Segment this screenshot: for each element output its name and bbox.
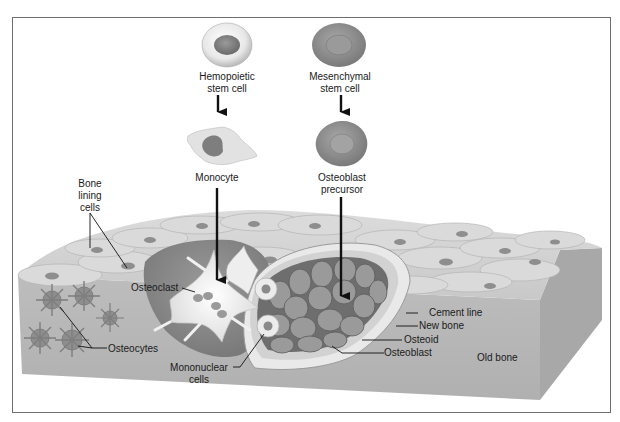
bone-lining-cells-label: Bone lining cells [70,178,110,214]
new-bone-label: New bone [419,320,464,332]
bone-lining-line2: lining [70,190,110,202]
cement-line-label: Cement line [429,307,482,319]
bone-lining-line3: cells [70,202,110,214]
hemopoietic-label-line1: Hemopoietic [187,71,267,83]
osteoblast-precursor-line2: precursor [302,184,382,196]
mononuclear-line1: Mononuclear [165,362,233,374]
osteoblast-label: Osteoblast [384,347,432,359]
osteoid-label: Osteoid [404,334,438,346]
osteoblast-precursor-icon [316,121,368,166]
monocyte-label: Monocyte [187,172,247,184]
mononuclear-line2: cells [165,374,233,386]
mononuclear-cells-label: Mononuclear cells [165,362,233,386]
monocyte-icon [187,127,257,165]
mesenchymal-label-line2: stem cell [300,83,380,95]
osteoclast-label: Osteoclast [131,282,178,294]
mesenchymal-stem-cell-label: Mesenchymal stem cell [300,71,380,95]
old-bone-label: Old bone [477,352,518,364]
mesenchymal-label-line1: Mesenchymal [300,71,380,83]
mesenchymal-stem-cell-icon [312,23,366,67]
osteoblast-precursor-label: Osteoblast precursor [302,172,382,196]
hemopoietic-stem-cell-icon [202,23,252,67]
hemopoietic-stem-cell-label: Hemopoietic stem cell [187,71,267,95]
osteocytes-label: Osteocytes [108,343,158,355]
hemopoietic-label-line2: stem cell [187,83,267,95]
osteoblast-precursor-line1: Osteoblast [302,172,382,184]
bone-lining-line1: Bone [70,178,110,190]
